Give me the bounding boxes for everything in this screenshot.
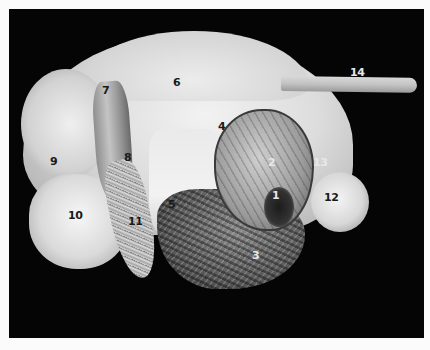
sphere-region-12: [311, 172, 369, 232]
ligament-region-14: [281, 76, 417, 93]
label-6: 6: [173, 77, 180, 88]
label-2: 2: [268, 157, 275, 168]
label-1: 1: [272, 190, 279, 201]
label-12: 12: [324, 192, 339, 203]
label-8: 8: [124, 152, 131, 163]
label-11: 11: [128, 216, 143, 227]
label-5: 5: [168, 199, 175, 210]
label-9: 9: [50, 156, 57, 167]
label-10: 10: [68, 210, 83, 221]
figure-canvas: 1 2 3 4 5 6 7 8 9 10 11 12 13 14: [0, 0, 430, 350]
label-7: 7: [102, 85, 109, 96]
label-4: 4: [218, 121, 225, 132]
label-13: 13: [313, 157, 328, 168]
label-14: 14: [350, 67, 365, 78]
specimen-photo: [9, 9, 424, 338]
label-3: 3: [252, 250, 259, 261]
